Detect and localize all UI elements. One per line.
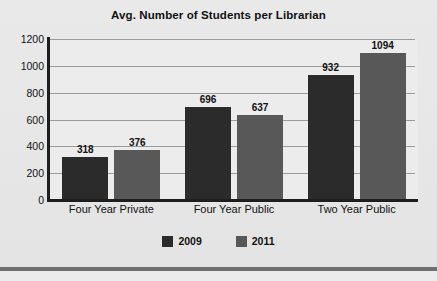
bar-2009-four-year-private[interactable]	[62, 157, 108, 200]
bar-2011-four-year-private[interactable]	[114, 150, 160, 200]
y-axis-tick-label: 0	[0, 194, 44, 206]
y-axis-tick-label: 400	[0, 140, 44, 152]
y-axis-tick-label: 600	[0, 114, 44, 126]
footer-strip	[0, 271, 437, 281]
x-axis-line	[47, 199, 418, 202]
legend-item-2009[interactable]: 2009	[162, 235, 201, 247]
x-axis-label-four-year-public: Four Year Public	[173, 203, 296, 215]
legend-swatch-icon	[236, 236, 247, 247]
x-axis-category-labels: Four Year PrivateFour Year PublicTwo Yea…	[50, 203, 418, 221]
y-axis-tick-labels: 020040060080010001200	[0, 39, 44, 200]
x-axis-label-four-year-private: Four Year Private	[50, 203, 173, 215]
bar-group: 9321094	[295, 39, 418, 200]
legend-label: 2011	[252, 235, 275, 247]
bar-2009-four-year-public[interactable]	[185, 107, 231, 200]
y-axis-tick-label: 1000	[0, 60, 44, 72]
bar-2011-four-year-public[interactable]	[237, 115, 283, 200]
bar-value-label: 318	[62, 144, 108, 155]
bar-2009-two-year-public[interactable]	[308, 75, 354, 200]
legend-label: 2009	[178, 235, 201, 247]
chart-title: Avg. Number of Students per Librarian	[0, 9, 437, 21]
bar-group: 696637	[173, 39, 296, 200]
chart-legend: 20092011	[0, 232, 437, 250]
legend-item-2011[interactable]: 2011	[236, 235, 275, 247]
bar-value-label: 932	[308, 62, 354, 73]
bar-value-label: 376	[114, 137, 160, 148]
bar-value-label: 1094	[360, 40, 406, 51]
y-axis-tick-label: 200	[0, 167, 44, 179]
x-axis-label-two-year-public: Two Year Public	[295, 203, 418, 215]
y-axis-tick-label: 1200	[0, 33, 44, 45]
y-axis-line	[47, 37, 50, 202]
legend-swatch-icon	[162, 236, 173, 247]
bar-2011-two-year-public[interactable]	[360, 53, 406, 200]
y-axis-tick-label: 800	[0, 87, 44, 99]
bar-value-label: 637	[237, 102, 283, 113]
chart-container: Avg. Number of Students per Librarian 02…	[0, 0, 437, 263]
chart-page: Avg. Number of Students per Librarian 02…	[0, 0, 437, 281]
plot-area: 3183766966379321094	[50, 39, 418, 200]
bar-value-label: 696	[185, 94, 231, 105]
bar-group: 318376	[50, 39, 173, 200]
